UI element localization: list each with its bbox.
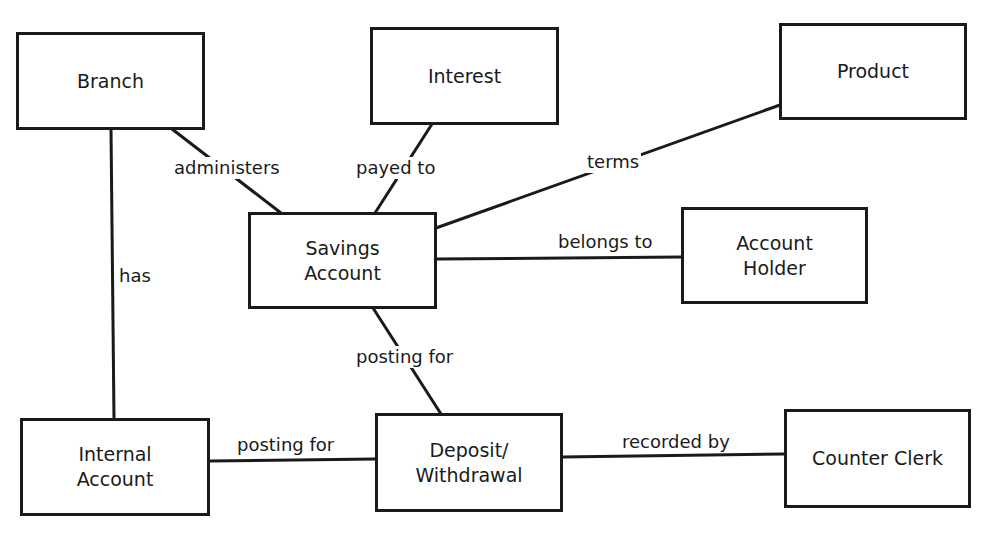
edge-label-posting-for-internal: posting for	[235, 434, 336, 456]
edge-label-administers: administers	[172, 157, 282, 179]
node-branch: Branch	[16, 32, 205, 130]
edge-label-payed-to: payed to	[354, 157, 437, 179]
node-deposit-withdrawal: Deposit/ Withdrawal	[375, 413, 563, 512]
edge-posting-for-internal	[209, 459, 375, 461]
edge-label-has: has	[117, 265, 153, 287]
edge-label-recorded-by: recorded by	[620, 431, 732, 453]
edge-label-belongs-to: belongs to	[556, 231, 655, 253]
edge-belongs-to	[436, 257, 681, 259]
edge-label-posting-for-savings: posting for	[354, 346, 455, 368]
node-product: Product	[779, 23, 967, 120]
node-internal-account: Internal Account	[20, 418, 210, 516]
edge-recorded-by	[562, 454, 784, 457]
node-account-holder: Account Holder	[681, 207, 868, 304]
edge-label-terms: terms	[585, 151, 641, 173]
node-counter-clerk: Counter Clerk	[784, 409, 971, 508]
node-interest: Interest	[370, 27, 559, 125]
node-savings-account: Savings Account	[248, 212, 437, 309]
edge-has	[111, 129, 114, 419]
